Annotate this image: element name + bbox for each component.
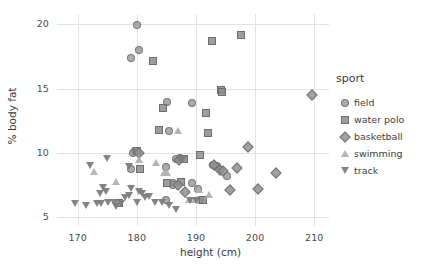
data-point-waterpolo	[217, 86, 225, 94]
legend-item-label: water polo	[354, 114, 404, 125]
x-axis-tick-label: 170	[58, 232, 98, 243]
data-point-track	[158, 199, 166, 206]
data-point-basketball	[214, 164, 225, 175]
data-point-waterpolo	[163, 179, 171, 187]
data-point-track	[179, 156, 187, 163]
data-point-field	[127, 54, 135, 62]
data-point-track	[110, 199, 118, 206]
data-point-waterpolo	[149, 57, 157, 65]
y-axis-title: % body fat	[6, 71, 18, 161]
data-point-track	[135, 188, 143, 195]
data-point-field	[172, 155, 180, 163]
legend-item-label: field	[354, 97, 375, 108]
data-point-track	[104, 199, 112, 206]
diamond-icon	[336, 133, 354, 141]
legend-item-water-polo[interactable]: water polo	[336, 111, 421, 128]
data-point-swimming	[160, 169, 168, 176]
data-point-track	[103, 155, 111, 162]
data-point-track	[138, 190, 146, 197]
data-point-field	[169, 181, 177, 189]
data-point-waterpolo	[177, 178, 185, 186]
data-point-track	[186, 197, 194, 204]
data-point-waterpolo	[196, 151, 204, 159]
data-point-basketball	[172, 180, 183, 191]
data-point-track	[151, 199, 159, 206]
y-axis-tick-label: 20	[17, 18, 49, 29]
gridline-horizontal	[57, 89, 329, 90]
data-point-basketball	[243, 141, 254, 152]
legend-entries: fieldwater polobasketballswimmingtrack	[336, 94, 421, 179]
x-axis-tick-label: 190	[176, 232, 216, 243]
data-point-field	[209, 161, 217, 169]
legend-item-label: swimming	[354, 148, 403, 159]
data-point-swimming	[174, 127, 182, 134]
data-point-basketball	[252, 184, 263, 195]
y-axis-tick-label: 10	[17, 147, 49, 158]
legend-item-basketball[interactable]: basketball	[336, 128, 421, 145]
data-point-swimming	[152, 159, 160, 166]
data-point-swimming	[191, 196, 199, 203]
data-point-track	[82, 202, 90, 209]
data-point-field	[188, 179, 196, 187]
legend-item-track[interactable]: track	[336, 162, 421, 179]
data-point-track	[93, 200, 101, 207]
data-point-field	[213, 162, 221, 170]
data-point-track	[176, 156, 184, 163]
legend-item-label: basketball	[354, 131, 403, 142]
data-point-track	[141, 194, 149, 201]
triangle-up-icon	[336, 150, 354, 157]
data-point-track	[117, 200, 125, 207]
data-point-field	[176, 154, 184, 162]
gridline-vertical	[137, 14, 138, 226]
data-point-swimming	[90, 168, 98, 175]
data-point-field	[196, 196, 204, 204]
data-point-waterpolo	[202, 109, 210, 117]
data-point-field	[169, 179, 177, 187]
data-point-track	[96, 190, 104, 197]
legend-item-field[interactable]: field	[336, 94, 421, 111]
data-point-track	[145, 193, 153, 200]
x-axis-tick-label: 200	[235, 232, 275, 243]
gridline-horizontal	[57, 217, 329, 218]
circle-icon	[336, 99, 354, 107]
data-point-track	[121, 194, 129, 201]
gridline-vertical	[255, 14, 256, 226]
gridline-horizontal	[57, 153, 329, 154]
data-point-swimming	[163, 169, 171, 176]
data-point-track	[165, 202, 173, 209]
triangle-down-icon-glyph	[341, 167, 349, 174]
data-point-waterpolo	[199, 196, 207, 204]
data-point-track	[86, 162, 94, 169]
x-axis-tick-label: 210	[294, 232, 334, 243]
triangle-up-icon-glyph	[341, 150, 349, 157]
data-point-swimming	[112, 178, 120, 185]
y-axis-tick-label: 15	[17, 83, 49, 94]
data-point-field	[165, 127, 173, 135]
data-point-waterpolo	[159, 104, 167, 112]
diamond-icon-glyph	[339, 131, 350, 142]
data-point-basketball	[208, 160, 219, 171]
data-point-basketball	[224, 184, 235, 195]
gridline-vertical	[314, 14, 315, 226]
data-point-waterpolo	[237, 31, 245, 39]
data-point-track	[127, 185, 135, 192]
data-point-field	[163, 98, 171, 106]
gridline-horizontal	[57, 24, 329, 25]
data-point-basketball	[173, 154, 184, 165]
data-point-basketball	[232, 162, 243, 173]
data-point-field	[223, 172, 231, 180]
legend-item-label: track	[354, 165, 378, 176]
data-point-swimming	[185, 196, 193, 203]
data-point-track	[112, 203, 120, 210]
data-point-field	[127, 165, 135, 173]
data-point-track	[102, 188, 110, 195]
data-point-basketball	[306, 90, 317, 101]
data-point-basketball	[179, 187, 190, 198]
legend-item-swimming[interactable]: swimming	[336, 145, 421, 162]
data-point-waterpolo	[155, 126, 163, 134]
square-icon-glyph	[341, 116, 349, 124]
y-axis-tick-label: 5	[17, 211, 49, 222]
data-point-track	[172, 206, 180, 213]
data-point-track	[99, 184, 107, 191]
scatter-plot-area	[57, 14, 329, 226]
